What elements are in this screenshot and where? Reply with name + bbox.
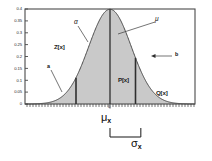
mean-axis-annotation: μx [101, 112, 111, 124]
sigma-symbol: σ [131, 137, 138, 149]
annotation-alpha: α [74, 19, 78, 26]
y-tick-label-015: 0.15 [4, 67, 22, 71]
y-tick-label-01: 0.1 [4, 79, 22, 83]
y-tick-label-04: 0.4 [4, 7, 22, 11]
y-tick-label-03: 0.3 [4, 31, 22, 35]
annotation-mu: μ [155, 16, 159, 23]
region-label-p: P[x] [118, 77, 129, 83]
y-tick-label-025: 0.25 [4, 43, 22, 47]
annotation-b: b [175, 52, 178, 57]
y-tick-label-02: 0.2 [4, 55, 22, 59]
region-label-q: Q[x] [156, 90, 168, 96]
region-label-z: Z[x] [54, 44, 65, 50]
sigma-bracket [110, 128, 141, 137]
y-tick-label-035: 0.35 [4, 19, 22, 23]
x-axis-ticks [27, 104, 194, 109]
annotation-a: a [47, 64, 50, 69]
mean-subscript: x [107, 117, 111, 124]
sigma-axis-annotation: σx [131, 138, 142, 150]
y-tick-label-005: 0.05 [4, 90, 22, 94]
x-tick-label-0: 0 [108, 106, 110, 110]
normal-distribution-chart [0, 0, 212, 161]
y-tick-label-0: 0 [4, 102, 22, 106]
sigma-subscript: x [138, 143, 142, 150]
